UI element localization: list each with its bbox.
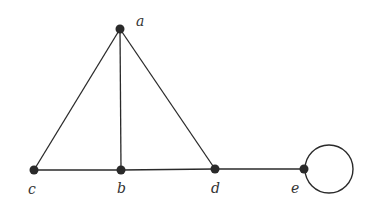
label-a: a [136,13,144,29]
node-e [300,165,309,174]
edge-a-b [120,29,121,170]
graph-diagram: a b c d e [0,0,374,212]
label-e: e [291,180,299,196]
label-c: c [28,181,36,197]
loop-e [305,145,353,193]
node-d [211,165,220,174]
label-b: b [117,180,126,196]
edge-a-c [34,29,120,170]
node-c [30,166,39,175]
node-b [117,166,126,175]
node-a [116,25,125,34]
edge-a-d [120,29,215,169]
edge-b-d [121,169,215,170]
label-d: d [211,180,220,196]
nodes [30,25,309,175]
